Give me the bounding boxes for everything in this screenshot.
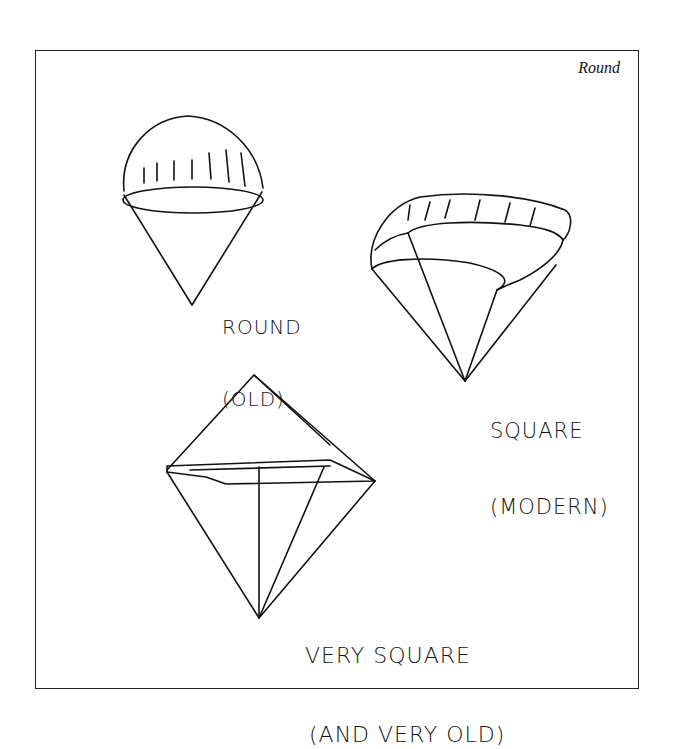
square-modern-label: SQUARE (MODERN) [490, 369, 609, 545]
round-label-line2: (OLD) [222, 387, 302, 411]
very-square-label-line1: VERY SQUARE [305, 643, 505, 669]
square-parachute-drawing [371, 194, 571, 381]
very-square-label: VERY SQUARE (AND VERY OLD) [305, 590, 505, 749]
round-old-label: ROUND (OLD) [222, 267, 302, 435]
round-label-line1: ROUND [222, 315, 302, 339]
square-label-line1: SQUARE [490, 419, 609, 444]
square-label-line2: (MODERN) [490, 495, 609, 520]
very-square-label-line2: (AND VERY OLD) [305, 722, 505, 748]
